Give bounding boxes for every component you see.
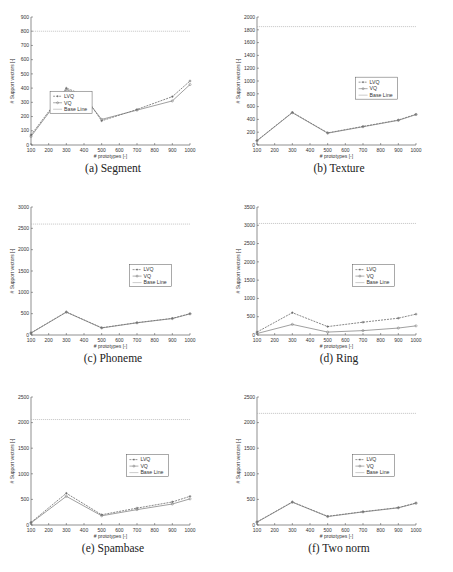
y-tick-label: 1000 <box>244 78 255 84</box>
x-axis-label: # prototypes [-] <box>94 533 128 539</box>
chart-panel-phoneme: 0500100015002000250030001002003004005006… <box>0 190 226 380</box>
x-tick-label: 400 <box>306 337 315 343</box>
x-tick-label: 800 <box>150 147 159 153</box>
legend-label: Base Line <box>366 469 389 475</box>
series-lvq <box>30 311 192 335</box>
x-tick-label: 200 <box>44 337 53 343</box>
x-tick-label: 900 <box>394 337 403 343</box>
legend-label: LVQ <box>140 456 150 462</box>
y-tick-label: 2000 <box>18 419 29 425</box>
chart-caption: (f) Two norm <box>226 542 452 554</box>
legend-label: Base Line <box>140 469 163 475</box>
chart-caption: (a) Segment <box>0 162 226 174</box>
x-tick-label: 200 <box>270 527 279 533</box>
legend-label: VQ <box>370 85 378 91</box>
x-tick-label: 1000 <box>410 147 421 153</box>
y-axis-label: # Support vectors [-] <box>235 248 241 294</box>
y-tick-label: 1400 <box>244 52 255 58</box>
y-tick-label: 2000 <box>244 14 255 20</box>
y-tick-label: 1000 <box>18 289 29 295</box>
x-tick-label: 100 <box>27 337 36 343</box>
series-vq <box>256 501 417 523</box>
y-axis-label: # Support vectors [-] <box>9 58 15 104</box>
series-lvq <box>256 311 418 333</box>
legend-label: LVQ <box>366 266 376 272</box>
chart-svg: 0200400600800100012001400160018002000100… <box>226 0 453 165</box>
series-lvq <box>256 501 418 524</box>
series-vq <box>256 112 417 142</box>
x-tick-label: 1000 <box>184 527 195 533</box>
y-tick-label: 800 <box>247 91 256 97</box>
y-tick-label: 1500 <box>18 268 29 274</box>
chart-caption: (e) Spambase <box>0 542 226 554</box>
x-tick-label: 400 <box>80 337 89 343</box>
y-tick-label: 600 <box>21 56 30 62</box>
legend: LVQVQBase Line <box>126 455 168 477</box>
x-tick-label: 300 <box>288 337 297 343</box>
x-tick-label: 400 <box>306 147 315 153</box>
y-tick-label: 400 <box>247 116 256 122</box>
x-tick-label: 100 <box>253 337 262 343</box>
x-tick-label: 100 <box>27 527 36 533</box>
chart-svg: 0100200300400500600700800900100200300400… <box>0 0 226 165</box>
legend: LVQVQBase Line <box>50 91 92 113</box>
chart-panel-segment: 0100200300400500600700800900100200300400… <box>0 0 226 190</box>
x-tick-label: 900 <box>394 147 403 153</box>
chart-panel-two-norm: 0500100015002000250010020030040050060070… <box>226 380 452 570</box>
y-tick-label: 3500 <box>244 204 255 210</box>
x-tick-label: 1000 <box>410 337 421 343</box>
y-tick-label: 3000 <box>18 204 29 210</box>
y-axis-label: # Support vectors [-] <box>9 248 15 294</box>
x-tick-label: 700 <box>359 147 368 153</box>
legend-label: LVQ <box>366 456 376 462</box>
x-tick-label: 300 <box>288 527 297 533</box>
y-tick-label: 200 <box>247 129 256 135</box>
y-tick-label: 2000 <box>244 419 255 425</box>
y-tick-label: 2500 <box>18 225 29 231</box>
x-tick-label: 200 <box>44 527 53 533</box>
y-tick-label: 600 <box>247 103 256 109</box>
chart-caption: (c) Phoneme <box>0 352 226 364</box>
chart-caption: (b) Texture <box>226 162 452 174</box>
series-lvq <box>256 111 418 142</box>
y-tick-label: 1600 <box>244 39 255 45</box>
chart-panel-texture: 0200400600800100012001400160018002000100… <box>226 0 452 190</box>
x-tick-label: 300 <box>62 337 71 343</box>
x-tick-label: 900 <box>394 527 403 533</box>
series-vq <box>30 495 191 524</box>
x-tick-label: 800 <box>150 337 159 343</box>
x-tick-label: 100 <box>253 527 262 533</box>
chart-panel-ring: 0500100015002000250030003500100200300400… <box>226 190 452 380</box>
y-tick-label: 2000 <box>18 246 29 252</box>
x-tick-label: 700 <box>133 527 142 533</box>
y-tick-label: 100 <box>21 127 30 133</box>
x-tick-label: 700 <box>359 337 368 343</box>
axes: 0500100015002000250010020030040050060070… <box>244 394 422 533</box>
y-tick-label: 3000 <box>244 222 255 228</box>
x-tick-label: 100 <box>27 147 36 153</box>
x-tick-label: 900 <box>168 337 177 343</box>
x-tick-label: 100 <box>253 147 262 153</box>
legend-label: LVQ <box>64 93 74 99</box>
legend-label: LVQ <box>370 79 380 85</box>
y-axis-label: # Support vectors [-] <box>235 58 241 104</box>
series-vq <box>256 323 417 334</box>
x-tick-label: 200 <box>270 337 279 343</box>
y-tick-label: 800 <box>21 28 30 34</box>
x-axis-label: # prototypes [-] <box>320 343 354 349</box>
y-tick-label: 700 <box>21 42 30 48</box>
x-axis-label: # prototypes [-] <box>94 153 128 159</box>
y-tick-label: 500 <box>21 496 30 502</box>
y-axis-label: # Support vectors [-] <box>9 438 15 484</box>
x-axis-label: # prototypes [-] <box>94 343 128 349</box>
legend-label: Base Line <box>370 92 393 98</box>
x-tick-label: 200 <box>270 147 279 153</box>
legend-label: Base Line <box>366 279 389 285</box>
chart-svg: 0500100015002000250030001002003004005006… <box>0 190 226 355</box>
y-tick-label: 500 <box>21 310 30 316</box>
axes: 0500100015002000250030003500100200300400… <box>244 204 422 343</box>
y-tick-label: 300 <box>21 99 30 105</box>
legend: LVQVQBase Line <box>356 77 398 99</box>
x-tick-label: 700 <box>133 337 142 343</box>
chart-caption: (d) Ring <box>226 352 452 364</box>
